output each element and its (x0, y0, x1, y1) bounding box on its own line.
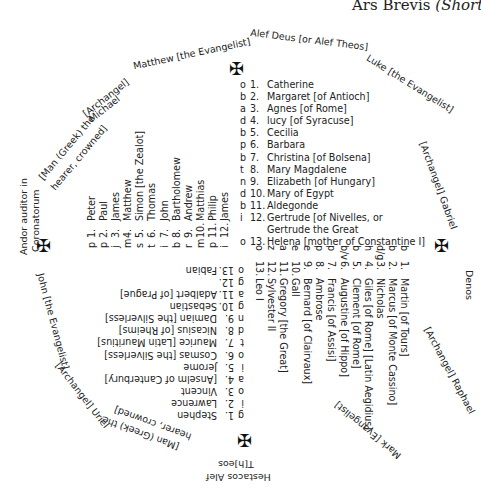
list-item: i12.Gertrude [of Nivelles, or (240, 212, 425, 224)
list-cell: 13. (217, 264, 234, 276)
list-cell: [Anselm of Canterbury] (105, 373, 217, 385)
list-cell: p (98, 238, 110, 248)
list-cell: 4. (217, 373, 234, 385)
list-cell: 2. (250, 91, 267, 103)
list-item: t6.Thomas (146, 131, 158, 248)
list-cell: 8. (313, 261, 325, 278)
list-item: z12.Sylvester II (265, 245, 277, 430)
cross-icon-top: ✠ (229, 60, 244, 78)
list-cell: b (240, 200, 250, 212)
list-cell: lucy [of Syracuse] (267, 115, 353, 127)
list-cell: j (110, 238, 122, 248)
list-cell: Paul (98, 201, 110, 221)
list-item: o13.Fabian (97, 264, 244, 276)
list-cell: 2. (217, 397, 234, 409)
list-cell: 1. (217, 409, 234, 421)
header-title: Ars Brevis (352, 0, 431, 14)
list-item: b2.Marcus [of Monte Cassino] (386, 245, 398, 430)
list-cell: Gregory [the Great] (277, 278, 289, 373)
list-cell: 11. (250, 200, 267, 212)
list-cell: t (234, 336, 244, 348)
list-item: p1.Peter (86, 131, 98, 248)
list-item: j3.James (110, 131, 122, 248)
list-cell: Giles [of Rome] [Latin Aegidius] (362, 278, 374, 430)
list-cell: 5. (350, 261, 362, 278)
list-item: d4.lucy [of Syracuse] (240, 115, 425, 127)
list-cell: 11. (207, 221, 219, 238)
list-cell: 9. (217, 312, 234, 324)
list-item: i2.Lawrence (97, 397, 244, 409)
list-item: o6.Cosmas [the Silverless] (97, 348, 244, 360)
list-item: t7.Maurice [Latin Mauritius] (97, 336, 244, 348)
list-cell: p (325, 245, 337, 261)
list-item: b/v6.Augustine [of Hippo] (337, 245, 349, 430)
list-cell: 5. (250, 127, 267, 139)
header-title-italic: (Short Art) (435, 0, 481, 14)
list-cell: Thomas (146, 183, 158, 221)
list-item: h4.Giles [of Rome] [Latin Aegidius] (362, 245, 374, 430)
list-cell: b (240, 91, 250, 103)
list-cell: Matthias (195, 180, 207, 221)
list-item: t8.Mary Magdalene (240, 164, 425, 176)
list-cell: 7. (159, 221, 171, 238)
list-item: b5.Clement [of Rome] (350, 245, 362, 430)
list-cell: Marcus [of Monte Cassino] (386, 278, 398, 405)
list-cell: i (219, 238, 231, 248)
list-cell: 2. (98, 221, 110, 238)
list-cell: 10. (195, 221, 207, 238)
list-cell: Cosmas [the Silverless] (104, 348, 217, 360)
list-item: n9.Damian [the Silverless] (97, 312, 244, 324)
list-cell: h (362, 245, 374, 261)
list-cell: Andrew (183, 185, 195, 221)
list-cell: Mary Magdalene (267, 164, 347, 176)
list-item: o13.Leo I (253, 245, 265, 430)
list-cell: b/v (337, 245, 349, 261)
list-cell: Christina [of Bolsena] (267, 152, 371, 164)
list-item: o1.Catherine (240, 79, 425, 91)
list-cell: Gall (289, 278, 301, 297)
list-cell: 7. (325, 261, 337, 278)
list-cell: 1. (398, 261, 410, 278)
list-cell: g (234, 276, 244, 288)
list-cell: Bartholomew (171, 157, 183, 221)
list-cell: Margaret [of Antioch] (267, 91, 369, 103)
list-cell: Francis [of Assisi] (325, 278, 337, 361)
list-cell: s (134, 238, 146, 248)
list-cell: e (301, 245, 313, 261)
list-cell: b (240, 127, 250, 139)
list-item: b1.Martin [of Tours] (398, 245, 410, 430)
list-cell: o (234, 264, 244, 276)
ring-label-john: John [the Evangelist] (35, 272, 71, 370)
list-cell: t (240, 164, 250, 176)
list-cell: o (234, 348, 244, 360)
list-cell: p (313, 245, 325, 261)
list-cell: Clement [of Rome] (350, 278, 362, 369)
list-item: e9.Bernard [of Clairvaux] (301, 245, 313, 430)
list-cell: Lawrence (171, 397, 217, 409)
list-cell: 12. (250, 212, 267, 224)
list-cell: n (234, 312, 244, 324)
list-cell: 4. (122, 221, 134, 238)
running-header: Ars Brevis (Short Art) ☙ 719 (352, 0, 481, 14)
list-cell: 6. (217, 348, 234, 360)
list-item: e10.Gall (289, 245, 301, 430)
list-cell: b (240, 152, 250, 164)
list-item: p2.Paul (98, 131, 110, 248)
list-cell: z (265, 245, 277, 261)
list-cell (250, 224, 267, 236)
list-cell: m (195, 238, 207, 248)
list-cell: 1. (86, 221, 98, 238)
list-cell: Sebastian (170, 300, 217, 312)
list-cell: Aldegonde (267, 200, 318, 212)
list-cell: Nicasius [of Rheims] (119, 324, 217, 336)
list-cell: n (240, 176, 250, 188)
list-cell: Catherine (267, 79, 314, 91)
list-item: d8.Nicasius [of Rheims] (97, 324, 244, 336)
list-item: a11.Adalbert [of Prague] (97, 288, 244, 300)
list-cell: Agnes [of Rome] (267, 103, 347, 115)
list-cell: g (234, 409, 244, 421)
list-cell: Peter (86, 196, 98, 221)
list-item: g10.Sebastian (97, 300, 244, 312)
list-cell: i (234, 397, 244, 409)
list-cell: James (219, 192, 231, 221)
